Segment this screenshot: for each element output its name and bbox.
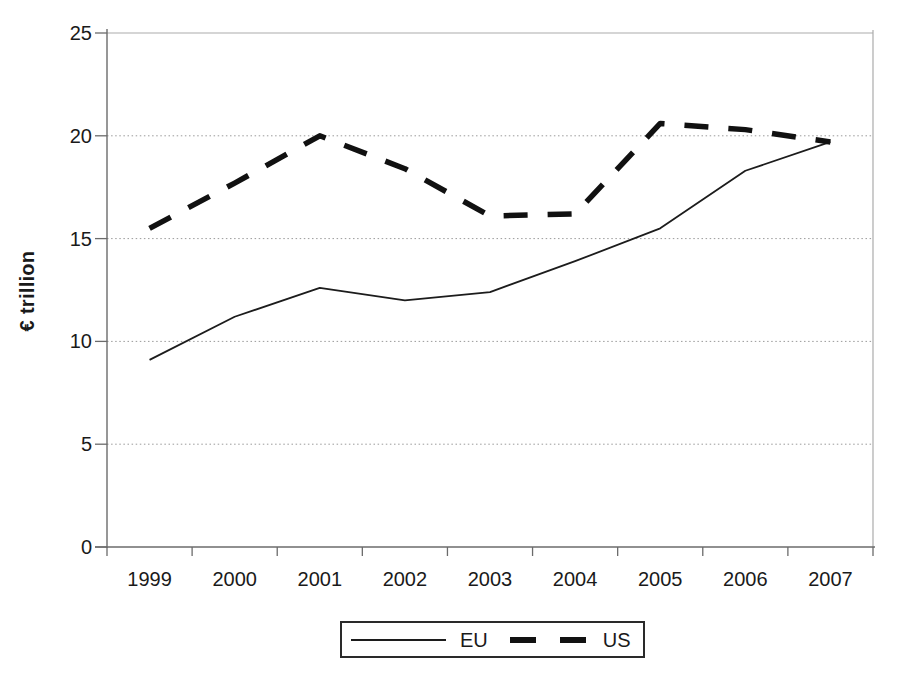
y-tick-label: 10 [70,330,92,352]
x-tick-label: 2003 [468,568,513,590]
x-tick-label: 2001 [298,568,343,590]
x-tick-label: 2004 [553,568,598,590]
x-tick-label: 2002 [383,568,428,590]
x-tick-label: 2005 [638,568,683,590]
y-tick-label: 20 [70,125,92,147]
legend-us-label: US [603,630,631,650]
y-tick-label: 15 [70,228,92,250]
legend-eu-line-sample [351,639,446,641]
y-tick-label: 0 [81,536,92,558]
plot-area: 0510152025199920002001200220032004200520… [0,0,898,678]
y-tick-label: 25 [70,22,92,44]
x-tick-label: 2006 [723,568,768,590]
x-tick-label: 2000 [212,568,257,590]
x-tick-label: 2007 [808,568,853,590]
chart-figure: € trillion 05101520251999200020012002200… [0,0,898,678]
legend-us-line-sample [510,637,588,643]
y-tick-label: 5 [81,433,92,455]
y-axis-title: € trillion [16,251,39,332]
legend: EU US [340,621,645,658]
x-tick-label: 1999 [127,568,172,590]
legend-eu-label: EU [460,630,488,650]
series-line-eu [150,142,831,360]
series-line-us [150,123,831,228]
